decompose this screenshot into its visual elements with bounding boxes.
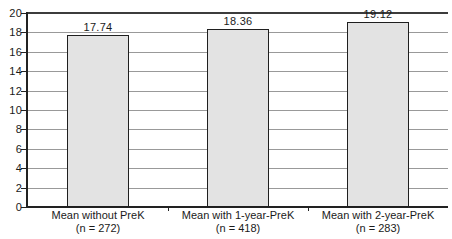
y-tick-label: 0 <box>0 201 22 213</box>
bar-chart-prek-means: 0246810121416182017.7418.3619.12Mean wit… <box>0 0 452 239</box>
y-tick-label: 4 <box>0 162 22 174</box>
y-tick-label: 8 <box>0 123 22 135</box>
bar-value-label: 19.12 <box>346 8 410 21</box>
bar <box>347 22 409 207</box>
bar-value-label: 18.36 <box>206 15 270 28</box>
category-label-name: Mean with 1-year-PreK <box>168 209 308 222</box>
y-tick-label: 6 <box>0 143 22 155</box>
bar <box>207 29 269 207</box>
y-tick-label: 16 <box>0 46 22 58</box>
category-label: Mean with 1-year-PreK(n = 418) <box>168 209 308 234</box>
category-label: Mean with 2-year-PreK(n = 283) <box>308 209 448 234</box>
category-label-name: Mean with 2-year-PreK <box>308 209 448 222</box>
y-tick-label: 10 <box>0 104 22 116</box>
bar-value-label: 17.74 <box>66 21 130 34</box>
category-label-n: (n = 272) <box>28 222 168 235</box>
category-label-n: (n = 418) <box>168 222 308 235</box>
bar <box>67 35 129 207</box>
y-tick-label: 2 <box>0 182 22 194</box>
y-tick-label: 20 <box>0 7 22 19</box>
y-tick-label: 12 <box>0 85 22 97</box>
y-tick-label: 18 <box>0 26 22 38</box>
category-label-n: (n = 283) <box>308 222 448 235</box>
y-tick-label: 14 <box>0 65 22 77</box>
category-label: Mean without PreK(n = 272) <box>28 209 168 234</box>
category-label-name: Mean without PreK <box>28 209 168 222</box>
